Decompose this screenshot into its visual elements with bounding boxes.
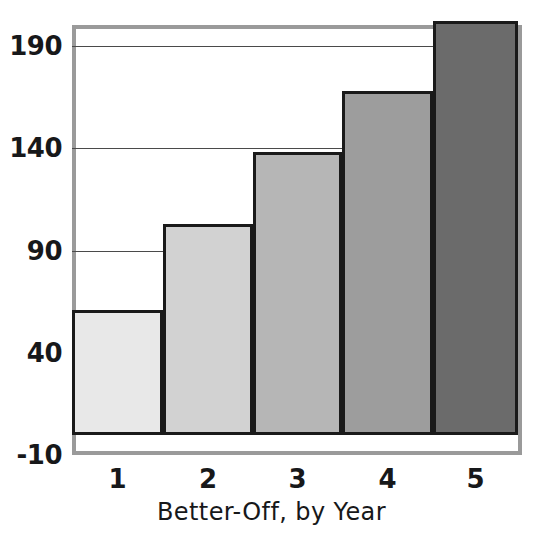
bar-chart: 1901409040-10 12345 Better-Off, by Year	[0, 0, 543, 536]
y-tick-label-140: 140	[0, 135, 62, 161]
bar-5[interactable]	[433, 21, 518, 434]
x-tick-label-4: 4	[378, 466, 396, 492]
gridline-140	[72, 148, 342, 149]
gridline-190	[72, 46, 433, 47]
plot-inner	[76, 29, 518, 451]
x-tick-label-3: 3	[288, 466, 306, 492]
x-axis-title: Better-Off, by Year	[0, 500, 543, 524]
bar-2[interactable]	[163, 224, 253, 435]
x-tick-label-2: 2	[199, 466, 217, 492]
x-tick-label-1: 1	[108, 466, 126, 492]
y-tick-label-40: 40	[0, 340, 62, 366]
gridline-90	[72, 251, 163, 252]
x-tick-label-5: 5	[466, 466, 484, 492]
bar-3[interactable]	[253, 152, 342, 434]
y-tick-label-190: 190	[0, 33, 62, 59]
y-tick-label--10: -10	[0, 442, 62, 468]
bar-4[interactable]	[342, 91, 433, 435]
plot-area	[72, 25, 522, 455]
y-tick-label-90: 90	[0, 238, 62, 264]
bar-1[interactable]	[72, 310, 163, 435]
